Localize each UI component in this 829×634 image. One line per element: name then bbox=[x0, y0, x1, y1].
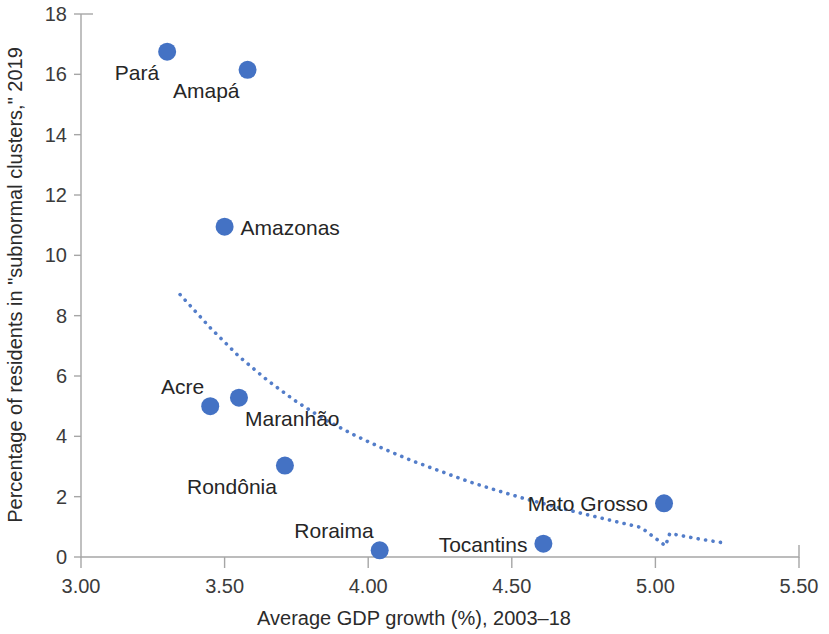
x-tick-label: 3.00 bbox=[62, 575, 101, 597]
data-point: Roraima bbox=[294, 519, 388, 559]
data-point: Amazonas bbox=[216, 216, 340, 239]
point-marker bbox=[158, 43, 176, 61]
y-axis-ticks: 024681012141618 bbox=[45, 3, 81, 568]
chart-canvas: 024681012141618 3.003.504.004.505.005.50… bbox=[0, 0, 829, 634]
data-point: Acre bbox=[161, 375, 219, 415]
point-label: Pará bbox=[115, 61, 160, 84]
x-axis-title: Average GDP growth (%), 2003–18 bbox=[257, 607, 571, 629]
point-marker bbox=[534, 535, 552, 553]
x-tick-label: 4.00 bbox=[349, 575, 388, 597]
x-tick-label: 5.00 bbox=[636, 575, 675, 597]
point-marker bbox=[655, 494, 673, 512]
point-label: Acre bbox=[161, 375, 204, 398]
y-tick-label: 18 bbox=[45, 3, 67, 25]
point-marker bbox=[230, 389, 248, 407]
data-point: Amapá bbox=[173, 61, 257, 102]
x-tick-label: 4.50 bbox=[492, 575, 531, 597]
point-marker bbox=[201, 397, 219, 415]
x-tick-label: 3.50 bbox=[205, 575, 244, 597]
point-label: Tocantins bbox=[439, 533, 528, 556]
point-label: Mato Grosso bbox=[528, 492, 648, 515]
data-point: Mato Grosso bbox=[528, 492, 673, 515]
y-tick-label: 14 bbox=[45, 124, 67, 146]
data-point: Tocantins bbox=[439, 533, 553, 556]
y-tick-label: 12 bbox=[45, 184, 67, 206]
y-tick-label: 10 bbox=[45, 244, 67, 266]
y-tick-label: 0 bbox=[56, 546, 67, 568]
y-axis-title: Percentage of residents in "subnormal cl… bbox=[4, 47, 26, 523]
data-points: ParáAmapáAmazonasAcreMaranhãoRondôniaRor… bbox=[115, 43, 673, 560]
point-marker bbox=[239, 61, 257, 79]
point-label: Maranhão bbox=[245, 407, 340, 430]
point-label: Amazonas bbox=[241, 216, 340, 239]
data-point: Maranhão bbox=[230, 389, 340, 430]
x-tick-label: 5.50 bbox=[780, 575, 819, 597]
point-label: Rondônia bbox=[187, 475, 277, 498]
data-point: Rondônia bbox=[187, 457, 294, 498]
y-tick-label: 4 bbox=[56, 425, 67, 447]
point-marker bbox=[276, 457, 294, 475]
data-point: Pará bbox=[115, 43, 176, 84]
point-marker bbox=[371, 541, 389, 559]
point-label: Roraima bbox=[294, 519, 374, 542]
y-tick-label: 6 bbox=[56, 365, 67, 387]
point-marker bbox=[216, 218, 234, 236]
point-label: Amapá bbox=[173, 79, 240, 102]
y-tick-label: 8 bbox=[56, 305, 67, 327]
scatter-chart: 024681012141618 3.003.504.004.505.005.50… bbox=[0, 0, 829, 634]
y-tick-label: 16 bbox=[45, 63, 67, 85]
y-tick-label: 2 bbox=[56, 486, 67, 508]
x-axis-ticks: 3.003.504.004.505.005.50 bbox=[62, 557, 819, 597]
